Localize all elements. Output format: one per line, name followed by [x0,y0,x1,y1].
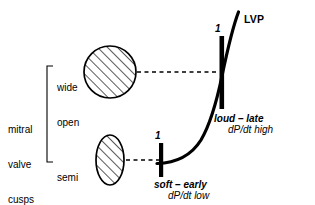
label-wide-open-line1: wide [57,82,79,94]
annotation-upper-line1: loud – late [214,113,273,124]
label-semi-closed-line1: semi [57,172,86,184]
label-lvp: LVP [244,13,264,25]
annotation-lower: soft – early dP/dt low [154,179,209,201]
label-mitral-line2: valve [8,159,34,171]
lvp-curve [157,12,239,164]
label-tick-upper-number: 1 [215,23,221,35]
annotation-upper: loud – late dP/dt high [214,113,273,135]
wide-open-cusp-icon [82,44,138,100]
tick-marker-lower [159,143,163,177]
label-tick-lower-number: 1 [155,130,161,142]
cusp-range-bracket [47,66,53,162]
lvp-mitral-cusp-diagram: wide open mitral valve cusps semi closed… [0,0,315,205]
annotation-lower-line1: soft – early [154,179,209,190]
annotation-lower-line2: dP/dt low [154,190,209,201]
label-wide-open: wide open [57,58,79,152]
tick-marker-upper [220,36,225,109]
label-wide-open-line2: open [57,117,79,129]
annotation-upper-line2: dP/dt high [214,124,273,135]
label-mitral-line1: mitral [8,124,34,136]
semi-closed-cusp-icon [95,134,125,186]
label-mitral-line3: cusps [8,194,34,205]
label-semi-closed: semi closed [57,148,86,205]
diagram-canvas [0,0,315,205]
label-mitral-valve-cusps: mitral valve cusps [8,100,34,205]
